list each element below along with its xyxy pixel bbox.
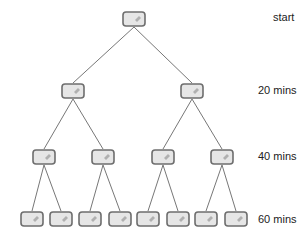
bacterium-cell-icon: [79, 212, 101, 226]
bacterium-cell-icon: [21, 212, 43, 226]
tree-diagram: [0, 0, 308, 242]
tree-edge: [44, 165, 61, 211]
tree-edge: [44, 99, 73, 149]
tree-edge: [206, 165, 222, 211]
tree-edge: [73, 99, 103, 149]
bacterium-cell-icon: [137, 212, 159, 226]
bacterium-cell-icon: [152, 150, 174, 164]
level-label-60-mins: 60 mins: [258, 213, 297, 225]
tree-edge: [103, 165, 120, 211]
level-label-40-mins: 40 mins: [258, 150, 297, 162]
bacterium-cell-icon: [211, 150, 233, 164]
tree-edge: [163, 99, 192, 149]
bacterium-cell-icon: [181, 84, 203, 98]
bacterium-cell-icon: [123, 12, 145, 26]
tree-edge: [222, 165, 236, 211]
tree-edge: [192, 99, 222, 149]
tree-edge: [90, 165, 103, 211]
bacterium-cell-icon: [109, 212, 131, 226]
bacterium-cell-icon: [167, 212, 189, 226]
bacterium-cell-icon: [195, 212, 217, 226]
bacterium-cell-icon: [33, 150, 55, 164]
tree-edge: [32, 165, 44, 211]
tree-edge: [134, 27, 192, 83]
level-label-20-mins: 20 mins: [258, 84, 297, 96]
bacterium-cell-icon: [62, 84, 84, 98]
edges: [32, 27, 236, 211]
level-label-start: start: [273, 11, 294, 23]
tree-edge: [148, 165, 163, 211]
tree-edge: [73, 27, 134, 83]
bacterium-cell-icon: [50, 212, 72, 226]
tree-edge: [163, 165, 178, 211]
bacterium-cell-icon: [92, 150, 114, 164]
bacterium-cell-icon: [225, 212, 247, 226]
